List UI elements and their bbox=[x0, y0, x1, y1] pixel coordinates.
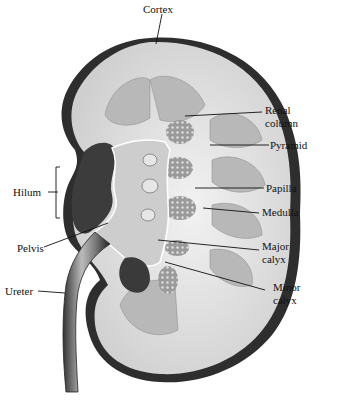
label-papilla: Papilla bbox=[266, 182, 297, 194]
label-pyramid: Pyramid bbox=[270, 139, 307, 151]
label-cortex: Cortex bbox=[143, 3, 173, 15]
label-renal-column-line2: column bbox=[265, 117, 298, 129]
label-medulla: Medulla bbox=[262, 206, 299, 218]
label-major-calyx-line1: Major bbox=[262, 240, 289, 252]
label-major-calyx-line2: calyx bbox=[262, 253, 286, 265]
label-hilum: Hilum bbox=[13, 186, 41, 198]
label-ureter: Ureter bbox=[5, 285, 33, 297]
label-renal-column-line1: Renal bbox=[265, 104, 291, 116]
kidney-diagram: Cortex Renal column Pyramid Papilla Medu… bbox=[0, 0, 338, 401]
kidney-illustration bbox=[0, 0, 338, 401]
label-pelvis: Pelvis bbox=[17, 242, 44, 254]
label-minor-calyx-line2: calyx bbox=[273, 294, 297, 306]
label-minor-calyx-line1: Minor bbox=[273, 281, 301, 293]
